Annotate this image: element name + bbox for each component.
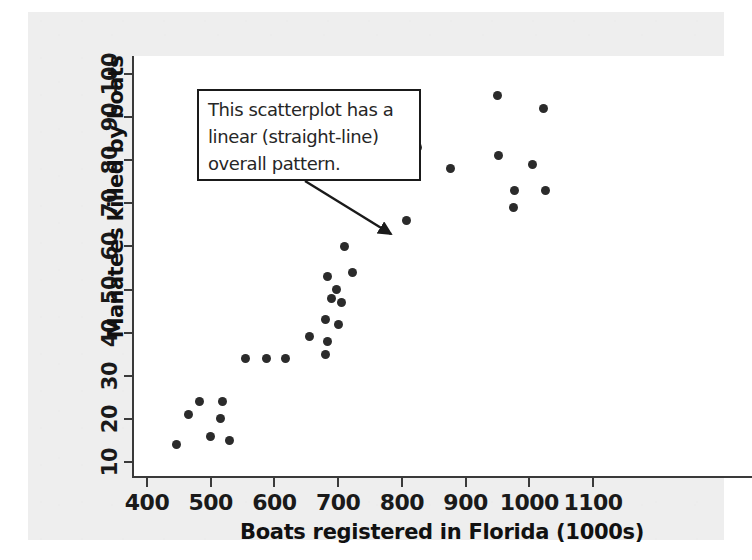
scatter-point xyxy=(327,294,336,303)
scatter-point xyxy=(539,104,548,113)
scatter-point xyxy=(509,203,518,212)
scatter-point xyxy=(323,272,332,281)
y-tick-label-wrap: 10 xyxy=(80,447,140,477)
scatter-point xyxy=(340,242,349,251)
figure-page: 102030405060708090100 400500600700800900… xyxy=(0,0,752,560)
scatter-point xyxy=(218,397,227,406)
scatter-point xyxy=(332,285,341,294)
scatter-point xyxy=(494,151,503,160)
scatter-point xyxy=(216,414,225,423)
scatter-point xyxy=(305,332,314,341)
scatter-point xyxy=(321,350,330,359)
x-axis-title: Boats registered in Florida (1000s) xyxy=(132,520,752,544)
annotation-callout-box: This scatterplot has a linear (straight-… xyxy=(197,89,421,181)
scatter-point xyxy=(541,186,550,195)
scatter-point xyxy=(446,164,455,173)
x-tick-mark xyxy=(337,478,339,487)
y-tick-label-wrap: 30 xyxy=(80,361,140,391)
callout-line-1: This scatterplot has a xyxy=(208,96,411,123)
x-tick-mark xyxy=(401,478,403,487)
scatter-point xyxy=(184,410,193,419)
x-tick-mark xyxy=(528,478,530,487)
y-tick-label-wrap: 20 xyxy=(80,404,140,434)
scatter-point xyxy=(528,160,537,169)
scatter-point xyxy=(281,354,290,363)
scatter-point xyxy=(262,354,271,363)
scatter-point xyxy=(241,354,250,363)
scatter-point xyxy=(402,216,411,225)
scatter-point xyxy=(348,268,357,277)
figure-panel: 102030405060708090100 400500600700800900… xyxy=(28,12,724,540)
scatter-point xyxy=(172,440,181,449)
scatter-point xyxy=(321,315,330,324)
x-tick-mark xyxy=(210,478,212,487)
scatter-point xyxy=(510,186,519,195)
x-tick-mark xyxy=(592,478,594,487)
scatter-point xyxy=(206,432,215,441)
callout-line-2: linear (straight-line) xyxy=(208,123,411,150)
x-tick-mark xyxy=(465,478,467,487)
scatter-point xyxy=(334,320,343,329)
x-tick-label: 1100 xyxy=(553,490,633,515)
y-axis-title: Manatees killed by boats xyxy=(101,47,131,347)
x-tick-mark xyxy=(273,478,275,487)
scatter-point xyxy=(323,337,332,346)
scatter-point xyxy=(337,298,346,307)
scatter-point xyxy=(493,91,502,100)
scatter-point xyxy=(195,397,204,406)
x-tick-mark xyxy=(146,478,148,487)
callout-line-3: overall pattern. xyxy=(208,150,411,177)
scatter-point xyxy=(225,436,234,445)
